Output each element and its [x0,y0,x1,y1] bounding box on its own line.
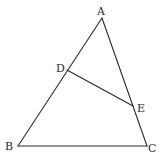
triangle-diagram: A B C D E [0,0,163,157]
segment-ca [102,18,147,146]
segment-de [67,70,133,106]
vertex-label-b: B [5,140,13,153]
point-label-e: E [137,102,145,115]
vertex-label-c: C [148,142,156,155]
point-label-d: D [56,62,65,75]
vertex-label-a: A [96,5,106,18]
